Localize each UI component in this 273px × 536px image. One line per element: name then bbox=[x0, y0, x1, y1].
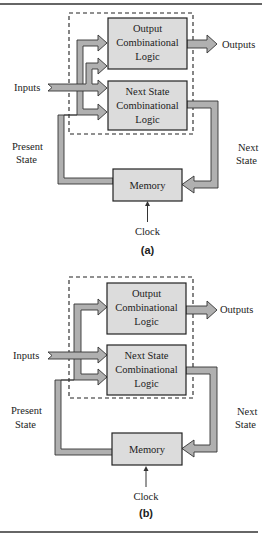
present-state-label-1: Present bbox=[12, 141, 43, 152]
outputs-bus bbox=[187, 35, 217, 53]
caption-b: (b) bbox=[139, 507, 153, 519]
inputs-label: Inputs bbox=[14, 82, 40, 93]
present-state-label-1: Present bbox=[11, 405, 42, 416]
next-state-logic-label-3: Logic bbox=[134, 378, 159, 389]
clock-arrowhead-icon bbox=[144, 466, 149, 471]
diagram-b: Output Combinational Logic Next State Co… bbox=[11, 277, 257, 519]
next-state-logic-label-1: Next State bbox=[124, 350, 168, 361]
output-logic-label-3: Logic bbox=[134, 316, 159, 327]
next-state-logic-label-2: Combinational bbox=[115, 364, 177, 375]
next-state-logic-label-2: Combinational bbox=[116, 100, 178, 111]
memory-label: Memory bbox=[129, 444, 166, 455]
present-state-label-2: State bbox=[16, 154, 37, 165]
next-state-label-1: Next bbox=[238, 142, 258, 153]
clock-label: Clock bbox=[133, 491, 159, 502]
inputs-label: Inputs bbox=[13, 350, 39, 361]
memory-label: Memory bbox=[129, 180, 166, 191]
state-machine-figure: Output Combinational Logic Next State Co… bbox=[0, 0, 273, 536]
output-logic-label-2: Combinational bbox=[116, 37, 178, 48]
next-state-label-2: State bbox=[236, 155, 257, 166]
clock-arrowhead-icon bbox=[145, 201, 150, 206]
caption-a: (a) bbox=[141, 244, 155, 256]
output-logic-label-2: Combinational bbox=[115, 302, 177, 313]
outputs-bus bbox=[186, 301, 217, 319]
next-state-bus bbox=[182, 367, 217, 457]
next-state-logic-label-3: Logic bbox=[135, 114, 160, 125]
clock-label: Clock bbox=[135, 226, 161, 237]
present-state-label-2: State bbox=[15, 419, 36, 430]
diagram-a: Output Combinational Logic Next State Co… bbox=[12, 13, 258, 256]
present-state-bus bbox=[58, 35, 113, 184]
next-state-label-2: State bbox=[235, 419, 256, 430]
output-logic-label-1: Output bbox=[133, 23, 162, 34]
next-state-label-1: Next bbox=[237, 406, 257, 417]
output-logic-label-3: Logic bbox=[135, 51, 160, 62]
outputs-label: Outputs bbox=[220, 304, 253, 315]
outputs-label: Outputs bbox=[222, 39, 255, 50]
next-state-logic-label-1: Next State bbox=[125, 86, 169, 97]
present-state-bus bbox=[55, 299, 113, 455]
output-logic-label-1: Output bbox=[132, 288, 161, 299]
